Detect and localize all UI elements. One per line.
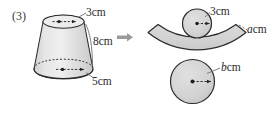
cone-net xyxy=(148,9,248,104)
label-small-circle-radius: 3cm xyxy=(210,6,230,18)
small-circle xyxy=(183,9,212,38)
label-large-circle-radius: bcm xyxy=(221,62,241,74)
large-circle xyxy=(171,60,221,104)
label-sector-radius: acm xyxy=(247,24,267,36)
label-top-radius: 3cm xyxy=(86,7,106,19)
figure-canvas: (3) xyxy=(0,0,276,123)
cone-top-ellipse xyxy=(43,15,84,28)
label-bottom-radius: 5cm xyxy=(92,76,112,88)
label-slant-height: 8cm xyxy=(93,36,113,48)
label-sector-radius-unit: cm xyxy=(253,23,267,35)
top-radius-leader xyxy=(78,13,86,18)
truncated-cone xyxy=(34,13,93,79)
right-arrow-icon xyxy=(117,33,133,41)
label-large-circle-radius-unit: cm xyxy=(227,61,241,73)
